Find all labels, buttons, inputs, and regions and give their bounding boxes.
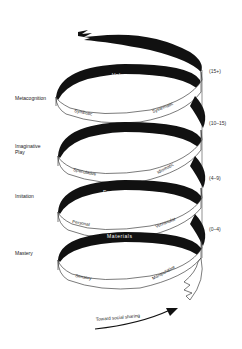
band-label-form: Form [111, 132, 125, 138]
stage-label-mastery: Mastery [15, 250, 33, 256]
social-sharing-arrow: Toward social sharing [95, 308, 178, 329]
band-label-expression: Expression [103, 189, 134, 195]
spiral-level-materials: Materials Sensory Manipulative [58, 232, 202, 289]
stage-label-imitation: Imitation [15, 193, 34, 199]
spiral-diagram: Value Symbolic Systematic Form Speculati… [0, 0, 242, 349]
band-label-value: Value [112, 72, 127, 78]
age-label-15-plus: (15+) [209, 68, 221, 74]
stage-label-line-2: Play [15, 149, 41, 155]
band-label-materials: Materials [107, 233, 133, 239]
spiral-level-value: Value Symbolic Systematic [56, 64, 205, 128]
age-label-10-15: (10–15) [209, 120, 226, 126]
age-label-4-9: (4–9) [209, 175, 221, 181]
stage-label-metacognition: Metacognition [15, 95, 46, 101]
age-label-0-4: (0–4) [209, 226, 221, 232]
stage-label-imaginative-play: Imaginative Play [15, 143, 41, 155]
arrow-label: Toward social sharing [96, 313, 141, 322]
spiral-level-form: Form Speculative Idiomatic [58, 122, 205, 188]
